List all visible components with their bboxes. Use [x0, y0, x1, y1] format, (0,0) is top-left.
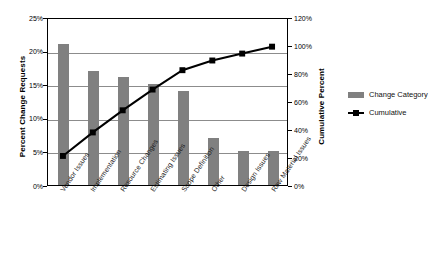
y-tick-mark-right	[288, 130, 292, 131]
legend-item-label: Change Category	[369, 90, 428, 99]
bar-swatch-icon	[348, 92, 364, 98]
y-tick-mark-right	[288, 74, 292, 75]
line-marker	[150, 87, 156, 93]
y-tick-label-left: 0%	[13, 183, 43, 190]
x-label-anchor: Scope Definition	[180, 189, 181, 190]
x-label-anchor: Raw Material Issues	[270, 189, 271, 190]
line-marker	[120, 107, 126, 113]
y-tick-mark-right	[288, 102, 292, 103]
y-tick-label-right: 60%	[294, 99, 324, 106]
x-label-anchor: Other	[210, 189, 211, 190]
y-tick-label-right: 0%	[294, 183, 324, 190]
y-tick-label-left: 10%	[13, 115, 43, 122]
x-label-anchor: Vendor Issues	[59, 189, 60, 190]
y-tick-mark-right	[288, 186, 292, 187]
y-tick-label-right: 120%	[294, 15, 324, 22]
line-marker	[239, 51, 245, 57]
x-label-anchor: Design Issues	[240, 189, 241, 190]
line-marker-swatch-icon	[348, 109, 364, 116]
y-tick-label-right: 100%	[294, 43, 324, 50]
line-marker	[179, 67, 185, 73]
y-tick-label-left: 25%	[13, 15, 43, 22]
legend-item-cumulative: Cumulative	[348, 106, 440, 119]
y-tick-label-left: 15%	[13, 82, 43, 89]
x-label-anchor: Implementation	[89, 189, 90, 190]
x-label-anchor: Resource Changes	[119, 189, 120, 190]
y-tick-label-left: 20%	[13, 48, 43, 55]
x-label-anchor: Estimating Issues	[149, 189, 150, 190]
line-marker	[90, 129, 96, 135]
legend-item-change-category: Change Category	[348, 88, 440, 101]
y-axis-title-right: Cumulative Percent	[317, 42, 326, 172]
line-marker	[269, 44, 275, 50]
y-tick-label-right: 80%	[294, 71, 324, 78]
line-marker	[60, 153, 66, 159]
chart-legend: Change Category Cumulative	[348, 88, 440, 124]
y-tick-mark-left	[43, 186, 47, 187]
y-tick-mark-right	[288, 46, 292, 47]
pareto-chart: Percent Change Requests Cumulative Perce…	[0, 0, 441, 275]
y-tick-label-right: 40%	[294, 127, 324, 134]
legend-item-label: Cumulative	[369, 108, 407, 117]
y-tick-label-left: 5%	[13, 149, 43, 156]
line-marker	[209, 58, 215, 64]
y-tick-mark-right	[288, 18, 292, 19]
